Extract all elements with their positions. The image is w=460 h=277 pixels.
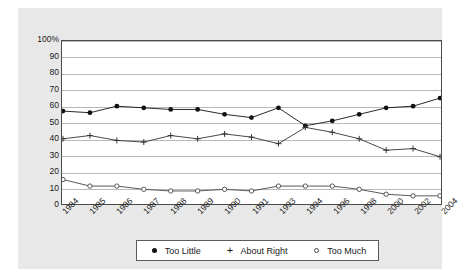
data-point: [410, 146, 416, 152]
series-line: [63, 98, 440, 126]
series-about-right: [62, 124, 441, 159]
data-point: [222, 112, 227, 117]
series-too-little: [62, 96, 441, 128]
data-point: [275, 141, 281, 147]
data-point: [168, 107, 173, 112]
legend-marker-open-circle: [311, 245, 322, 256]
y-axis-tick-label: 100%: [19, 35, 59, 44]
data-point: [438, 194, 441, 198]
y-axis-tick-label: 40: [19, 134, 59, 143]
data-point: [114, 104, 119, 109]
y-axis-tick-label: 10: [19, 184, 59, 193]
data-point: [303, 184, 307, 188]
legend-entry: +About Right: [224, 245, 287, 256]
y-axis-tick-label: 50: [19, 118, 59, 127]
y-axis-tick-label: 70: [19, 85, 59, 94]
chart-legend: Too Little+About RightToo Much: [136, 240, 379, 261]
data-point: [249, 115, 254, 120]
y-axis-tick-label: 0: [19, 200, 59, 209]
data-point: [276, 105, 281, 110]
data-point: [249, 134, 255, 140]
data-point: [329, 129, 335, 135]
y-axis-tick-label: 60: [19, 101, 59, 110]
open-circle-icon: [314, 248, 319, 253]
data-point: [88, 184, 92, 188]
data-point: [437, 154, 441, 160]
legend-entry: Too Much: [311, 245, 366, 256]
data-point: [88, 110, 93, 115]
y-axis: 0102030405060708090100%: [18, 40, 59, 205]
y-axis-tick-label: 20: [19, 167, 59, 176]
legend-marker-plus: +: [224, 245, 235, 256]
plot-area: [61, 40, 442, 205]
data-point: [438, 96, 441, 101]
data-point: [249, 189, 253, 193]
data-point: [141, 105, 146, 110]
series-line: [63, 127, 440, 156]
data-point: [356, 136, 362, 142]
series-too-much: [62, 177, 441, 198]
data-point: [384, 105, 389, 110]
data-point: [62, 109, 65, 114]
plus-icon: +: [227, 245, 233, 256]
data-point: [87, 133, 93, 139]
data-point: [115, 184, 119, 188]
data-point: [62, 136, 66, 142]
data-point: [330, 118, 335, 123]
y-axis-tick-label: 30: [19, 151, 59, 160]
y-axis-tick-label: 80: [19, 68, 59, 77]
data-point: [384, 192, 388, 196]
data-point: [141, 139, 147, 145]
data-point: [222, 187, 226, 191]
legend-marker-filled-circle: [149, 245, 160, 256]
data-point: [411, 104, 416, 109]
y-axis-tick-label: 90: [19, 52, 59, 61]
legend-label: Too Little: [165, 246, 201, 256]
data-point: [330, 184, 334, 188]
data-point: [62, 177, 65, 181]
legend-entry: Too Little: [149, 245, 201, 256]
data-point: [276, 184, 280, 188]
x-axis-tick-label: 2004: [439, 196, 459, 216]
data-point: [142, 187, 146, 191]
data-point: [168, 133, 174, 139]
data-point: [114, 137, 120, 143]
data-point: [411, 194, 415, 198]
series-layer: [62, 41, 441, 204]
data-point: [195, 189, 199, 193]
filled-circle-icon: [152, 248, 157, 253]
legend-label: Too Much: [327, 246, 366, 256]
data-point: [357, 112, 362, 117]
data-point: [195, 107, 200, 112]
chart-panel: 0102030405060708090100% 1984198519861987…: [18, 8, 442, 269]
chart-page: 0102030405060708090100% 1984198519861987…: [0, 0, 460, 277]
data-point: [222, 131, 228, 137]
legend-label: About Right: [240, 246, 287, 256]
data-point: [357, 187, 361, 191]
data-point: [195, 136, 201, 142]
data-point: [383, 147, 389, 153]
data-point: [169, 189, 173, 193]
